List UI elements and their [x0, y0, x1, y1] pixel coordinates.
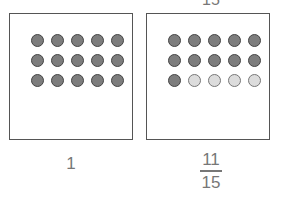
filled-dot-icon [91, 34, 104, 47]
fraction-label: 11 15 [196, 150, 226, 192]
dot-grid-whole [31, 34, 124, 87]
filled-dot-icon [168, 54, 181, 67]
filled-dot-icon [248, 34, 261, 47]
filled-dot-icon [188, 34, 201, 47]
cutoff-label: 15 [199, 0, 223, 9]
filled-dot-icon [71, 54, 84, 67]
filled-dot-icon [71, 34, 84, 47]
filled-dot-icon [31, 34, 44, 47]
filled-dot-icon [31, 54, 44, 67]
filled-dot-icon [248, 54, 261, 67]
empty-dot-icon [248, 74, 261, 87]
fraction-bar [200, 170, 222, 172]
filled-dot-icon [111, 34, 124, 47]
filled-dot-icon [208, 34, 221, 47]
filled-dot-icon [168, 74, 181, 87]
filled-dot-icon [51, 74, 64, 87]
filled-dot-icon [111, 74, 124, 87]
filled-dot-icon [168, 34, 181, 47]
filled-dot-icon [188, 54, 201, 67]
whole-label: 1 [58, 154, 84, 174]
empty-dot-icon [228, 74, 241, 87]
dot-grid-fraction [168, 34, 261, 87]
filled-dot-icon [91, 74, 104, 87]
filled-dot-icon [111, 54, 124, 67]
empty-dot-icon [188, 74, 201, 87]
filled-dot-icon [228, 34, 241, 47]
filled-dot-icon [228, 54, 241, 67]
filled-dot-icon [91, 54, 104, 67]
filled-dot-icon [208, 54, 221, 67]
filled-dot-icon [31, 74, 44, 87]
panel-fraction [146, 13, 270, 140]
empty-dot-icon [208, 74, 221, 87]
filled-dot-icon [71, 74, 84, 87]
panel-whole [9, 13, 133, 140]
filled-dot-icon [51, 54, 64, 67]
fraction-numerator: 11 [202, 150, 220, 169]
fraction-denominator: 15 [202, 173, 221, 192]
filled-dot-icon [51, 34, 64, 47]
